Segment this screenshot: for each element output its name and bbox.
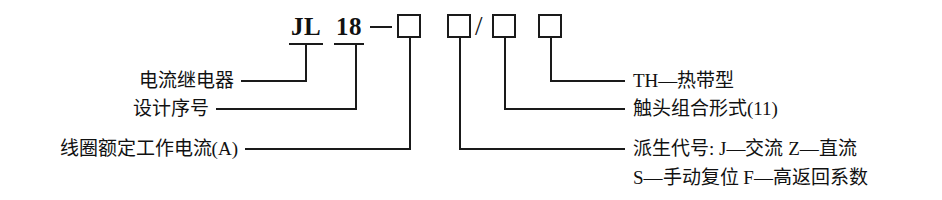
label-current-relay: 电流继电器 (0, 71, 234, 90)
code-series-prefix: JL (291, 14, 321, 39)
leader-vertical-derivative (459, 38, 461, 148)
code-box-current-rating (397, 14, 421, 38)
leader-vertical-design-number (355, 43, 357, 108)
leader-vertical-series-prefix (305, 43, 307, 80)
code-box-tropical (538, 14, 562, 38)
leader-vertical-contact-combination (504, 38, 506, 108)
model-designation-diagram: JL 18 / 电流继电器 设计序号 线圈额定工作电流(A) TH—热带型 触头… (0, 0, 942, 200)
leader-horizontal-contact-combination (504, 108, 625, 110)
label-tropical-type: TH—热带型 (633, 71, 734, 90)
code-design-number: 18 (336, 14, 362, 39)
code-slash: / (475, 13, 483, 40)
leader-horizontal-tropical (550, 80, 625, 82)
leader-vertical-tropical (550, 38, 552, 80)
code-dash (370, 26, 392, 28)
label-design-number: 设计序号 (0, 99, 209, 118)
code-box-contact-combination (492, 14, 516, 38)
leader-horizontal-derivative (459, 148, 625, 150)
leader-horizontal-series-prefix (241, 80, 307, 82)
leader-horizontal-design-number (216, 108, 357, 110)
label-derivative-code: 派生代号: J—交流 Z—直流 (633, 139, 857, 158)
code-box-derivative (447, 14, 471, 38)
label-derivative-code-line2: S—手动复位 F—高返回系数 (633, 168, 868, 187)
leader-horizontal-current-rating (245, 148, 411, 150)
label-coil-rated-current: 线圈额定工作电流(A) (0, 139, 238, 158)
label-contact-combination: 触头组合形式(11) (633, 99, 778, 118)
leader-vertical-current-rating (409, 38, 411, 148)
design-number-underline (334, 43, 364, 45)
